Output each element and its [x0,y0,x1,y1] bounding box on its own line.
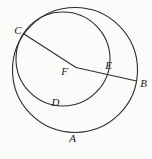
point-label-C: C [14,25,21,36]
point-label-B: B [140,78,147,89]
geometry-figure: C F E B D A [0,0,152,159]
point-label-D: D [52,97,60,108]
segment-c-f [24,34,76,68]
outer-circle [13,8,138,133]
point-label-E: E [105,59,112,70]
point-label-F: F [61,66,68,77]
point-label-A: A [69,133,76,144]
